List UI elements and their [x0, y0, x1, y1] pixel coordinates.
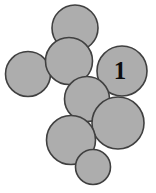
- circle-lower-right-circle: [92, 97, 144, 149]
- circle-left-circle: [6, 52, 51, 97]
- circle-label: 1: [114, 57, 127, 84]
- disk-label-layer: 1: [114, 57, 127, 84]
- packing-canvas: 1: [0, 0, 156, 193]
- circle-bottom-circle: [76, 150, 111, 185]
- circle-packing-figure: 1: [0, 0, 156, 193]
